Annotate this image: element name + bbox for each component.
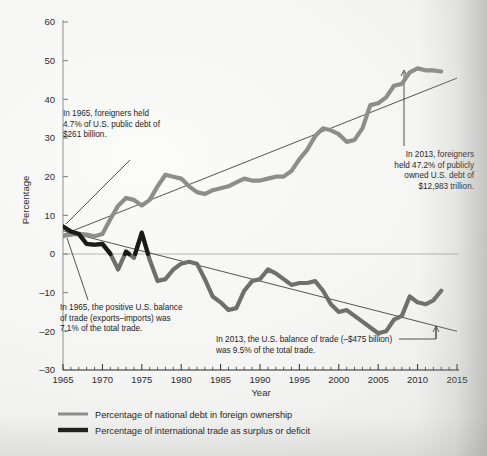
annotation-line: In 2013, the U.S. balance of trade (–$47…	[216, 335, 392, 344]
x-tick-label: 2000	[328, 374, 349, 385]
x-tick-label: 1975	[131, 374, 152, 385]
leader-trade-1965	[67, 238, 88, 300]
chart-figure: –30–20–100102030405060 19651970197519801…	[0, 0, 487, 456]
x-tick-label: 1990	[249, 374, 270, 385]
line-trade-balance-surplus	[125, 252, 129, 254]
y-tick-label: 20	[44, 171, 55, 182]
annotation-line: In 2013, foreigners	[406, 150, 474, 159]
annotation-line: In 1965, foreigners held	[63, 109, 149, 118]
annotation-line: $261 billion.	[63, 130, 107, 139]
cropped-title-ghost	[96, 0, 346, 6]
y-axis-title: Percentage	[20, 176, 31, 225]
x-axis-title: Year	[251, 387, 270, 398]
x-tick-label: 1995	[289, 374, 310, 385]
chart-legend: Percentage of national debt in foreign o…	[58, 410, 310, 436]
annotation-trade-2013: In 2013, the U.S. balance of trade (–$47…	[215, 335, 392, 355]
line-national-debt-foreign-ownership	[63, 68, 441, 236]
annotations-group: In 1965, foreigners held4.7% of U.S. pub…	[60, 109, 475, 355]
annotation-debt-2013: In 2013, foreignersheld 47.2% of publicl…	[394, 150, 475, 191]
x-tick-label: 2005	[368, 374, 389, 385]
x-tick-label: 2010	[407, 374, 428, 385]
x-tick-label: 1970	[92, 374, 113, 385]
annotation-line: owned U.S. debt of	[404, 171, 474, 180]
leader-debt-1965	[66, 160, 130, 224]
y-tick-label: 60	[44, 16, 55, 27]
leader-trade-2013	[399, 326, 439, 339]
y-tick-label: –10	[39, 287, 55, 298]
annotation-line: $12,983 trillion.	[418, 182, 474, 191]
annotation-line: In 1965, the positive U.S. balance	[60, 303, 183, 312]
chart-canvas: –30–20–100102030405060 19651970197519801…	[0, 0, 487, 456]
x-tick-group: 1965197019751980198519901995200020052010…	[52, 364, 467, 385]
annotation-line: held 47.2% of publicly	[394, 161, 475, 170]
y-tick-label: 30	[44, 132, 55, 143]
legend-item-2[interactable]: Percentage of international trade as sur…	[58, 426, 310, 436]
y-tick-label: 10	[44, 210, 55, 221]
y-tick-label: 0	[50, 248, 55, 259]
annotation-line: of trade (exports–imports) was	[60, 314, 171, 323]
x-tick-label: 1965	[52, 374, 73, 385]
x-tick-label: 2015	[446, 374, 467, 385]
annotation-line: 4.7% of U.S. public debt of	[63, 120, 161, 129]
annotation-line: 7.1% of the total trade.	[60, 324, 142, 333]
annotation-trade-1965: In 1965, the positive U.S. balanceof tra…	[60, 303, 183, 333]
y-tick-label: 50	[44, 55, 55, 66]
legend-label: Percentage of international trade as sur…	[95, 426, 310, 436]
x-tick-label: 1985	[210, 374, 231, 385]
trend-line-debt-trend	[63, 78, 457, 235]
y-tick-label: 40	[44, 94, 55, 105]
annotation-line: was 9.5% of the total trade.	[215, 346, 315, 355]
legend-label: Percentage of national debt in foreign o…	[95, 410, 292, 420]
legend-item-1[interactable]: Percentage of national debt in foreign o…	[58, 410, 292, 420]
series-national-debt-foreign-ownership	[63, 68, 441, 236]
x-tick-label: 1980	[171, 374, 192, 385]
annotation-debt-1965: In 1965, foreigners held4.7% of U.S. pub…	[63, 109, 161, 139]
y-tick-label: –20	[39, 326, 55, 337]
